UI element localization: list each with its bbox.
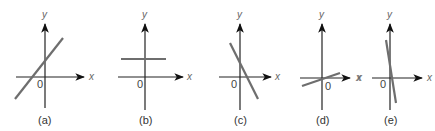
- x-label: x: [186, 71, 193, 82]
- caption: (b): [139, 114, 152, 126]
- origin-label: 0: [325, 80, 331, 92]
- origin-label: 0: [380, 78, 386, 90]
- stray-x-label: x: [355, 72, 362, 83]
- origin-label: 0: [231, 78, 237, 90]
- y-label: y: [41, 9, 48, 20]
- x-label: x: [274, 71, 281, 82]
- x-label: x: [88, 71, 95, 82]
- y-label: y: [141, 9, 148, 20]
- caption: (a): [38, 114, 51, 126]
- panel-e: y x x 0 (e): [355, 9, 433, 126]
- panel-d: y x 0 (d): [300, 9, 363, 126]
- caption: (e): [384, 114, 397, 126]
- y-label: y: [386, 9, 393, 20]
- y-label: y: [318, 9, 325, 20]
- graph-line: [230, 43, 258, 99]
- graph-line: [386, 40, 396, 103]
- origin-label: 0: [137, 78, 143, 90]
- origin-label: 0: [37, 78, 43, 90]
- graph-line: [302, 73, 340, 86]
- figure-canvas: y x 0 (a) y x 0 (b) y x 0 (c) y x 0 (d): [0, 0, 435, 131]
- panel-a: y x 0 (a): [15, 9, 95, 126]
- caption: (d): [316, 114, 329, 126]
- panel-b: y x 0 (b): [118, 9, 193, 126]
- caption: (c): [234, 114, 247, 126]
- panel-c: y x 0 (c): [219, 9, 281, 126]
- y-label: y: [236, 9, 243, 20]
- x-label: x: [426, 72, 433, 83]
